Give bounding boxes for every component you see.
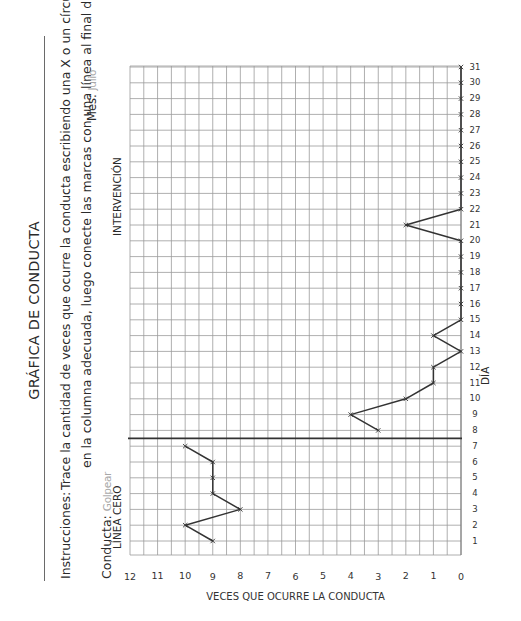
- day-tick-label: 23: [470, 188, 481, 198]
- day-tick-label: 22: [470, 204, 481, 214]
- count-tick-label: 8: [237, 571, 243, 582]
- day-tick-label: 4: [472, 488, 477, 498]
- day-tick-label: 2: [472, 520, 477, 530]
- day-tick-label: 14: [470, 330, 481, 340]
- day-tick-label: 16: [470, 299, 481, 309]
- day-tick-label: 29: [470, 93, 481, 103]
- count-tick-label: 2: [403, 571, 409, 582]
- day-tick-label: 30: [470, 77, 481, 87]
- day-tick-label: 6: [472, 457, 477, 467]
- day-tick-label: 10: [470, 393, 481, 403]
- day-tick-label: 19: [470, 251, 481, 261]
- chart-grid: [130, 66, 461, 555]
- count-tick-label: 0: [458, 571, 464, 582]
- x-axis-day-labels: 1234567891011121314151617181920212223242…: [470, 62, 481, 546]
- day-tick-label: 17: [470, 283, 481, 293]
- y-axis-title: VECES QUE OCURRE LA CONDUCTA: [206, 591, 385, 602]
- day-tick-label: 3: [472, 504, 477, 514]
- count-tick-label: 1: [430, 571, 436, 582]
- count-tick-label: 9: [210, 571, 216, 582]
- count-tick-label: 12: [124, 571, 136, 582]
- y-axis-count-labels: 0123456789101112: [124, 571, 464, 582]
- count-tick-label: 10: [179, 571, 191, 582]
- day-tick-label: 15: [470, 314, 481, 324]
- day-tick-label: 31: [470, 62, 481, 72]
- count-tick-label: 5: [320, 571, 326, 582]
- day-tick-label: 5: [472, 472, 477, 482]
- day-tick-label: 7: [472, 441, 477, 451]
- day-tick-label: 9: [472, 409, 477, 419]
- count-tick-label: 3: [375, 571, 381, 582]
- count-tick-label: 6: [292, 571, 298, 582]
- day-tick-label: 28: [470, 109, 481, 119]
- count-tick-label: 7: [265, 571, 271, 582]
- x-axis-title: DÍA: [479, 367, 491, 385]
- day-tick-label: 20: [470, 235, 481, 245]
- behavior-line-chart: 1234567891011121314151617181920212223242…: [0, 0, 521, 621]
- count-tick-label: 11: [152, 571, 164, 582]
- day-tick-label: 27: [470, 125, 481, 135]
- day-tick-label: 8: [472, 425, 477, 435]
- behavior-chart-page: GRÁFICA DE CONDUCTA Instrucciones: Trace…: [0, 0, 521, 621]
- day-tick-label: 1: [472, 536, 477, 546]
- day-tick-label: 21: [470, 220, 481, 230]
- day-tick-label: 25: [470, 156, 481, 166]
- day-tick-label: 18: [470, 267, 481, 277]
- count-tick-label: 4: [348, 571, 354, 582]
- day-tick-label: 24: [470, 172, 481, 182]
- day-tick-label: 13: [470, 346, 481, 356]
- day-tick-label: 26: [470, 141, 481, 151]
